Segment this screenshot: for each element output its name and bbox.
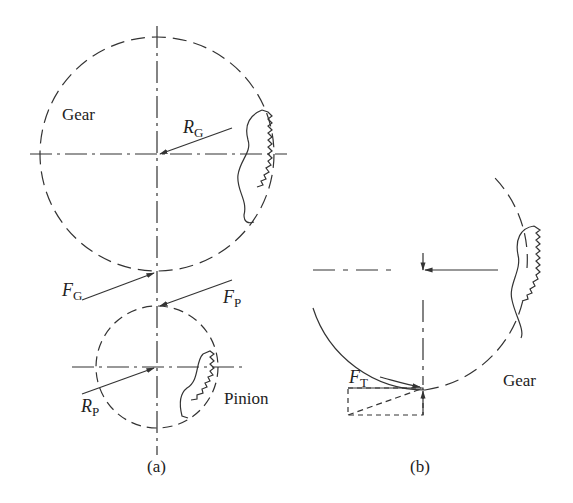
resultant-force-diagonal (348, 389, 421, 415)
pinion-radius-label: RP (80, 396, 99, 419)
tangential-force-label: FT (348, 367, 368, 390)
pinion-teeth-sector-icon (180, 351, 214, 418)
gear-radius-label: RG (182, 117, 203, 140)
gear-label-a: Gear (62, 105, 95, 124)
gear-b-pitch-arc-dashed (425, 176, 527, 390)
pinion-radius-arrow (82, 368, 154, 394)
gear-force-diagram: Gear RG FG FP RP Pinion (a) FT Gear (b) (0, 0, 573, 503)
force-gear-label: FG (61, 280, 82, 303)
pinion-label: Pinion (224, 389, 269, 408)
tangential-force-pointer (380, 377, 420, 387)
caption-a: (a) (147, 457, 166, 476)
caption-b: (b) (410, 457, 430, 476)
gear-b-pitch-arc (313, 308, 425, 390)
force-pinion-label: FP (222, 287, 241, 310)
force-gear-arrow (82, 273, 154, 300)
force-pinion-arrow (160, 280, 232, 306)
gear-teeth-sector-icon (238, 110, 272, 223)
gear-label-b: Gear (503, 371, 536, 390)
